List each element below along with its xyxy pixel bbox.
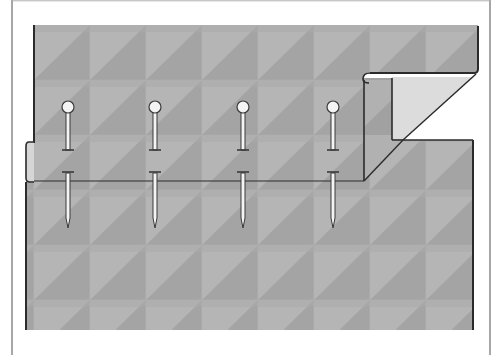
fabric-main-layer: [26, 25, 478, 330]
illustration-canvas: [0, 0, 492, 355]
hem-pinning-illustration: [0, 0, 492, 355]
hem-tab: [26, 142, 34, 182]
